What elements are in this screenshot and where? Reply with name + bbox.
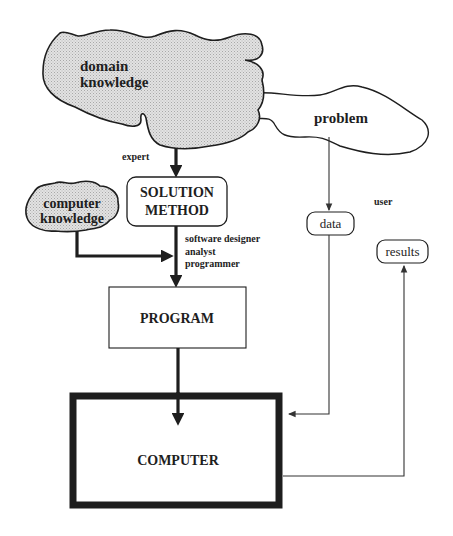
solution-method-label-line1: SOLUTION <box>140 185 214 200</box>
computer-knowledge-cloud: computer knowledge <box>26 181 119 231</box>
role-label-software-designer: software designer <box>185 233 261 244</box>
problem-label: problem <box>314 110 368 126</box>
diagram-canvas: problem domain knowledge expert SOLUTION… <box>0 0 453 536</box>
arrow-data-to-computer <box>289 235 329 414</box>
problem-cloud: problem <box>250 86 428 155</box>
domain-knowledge-label-line1: domain <box>80 58 129 74</box>
program-box: PROGRAM <box>109 287 246 348</box>
domain-knowledge-cloud: domain knowledge <box>43 30 264 149</box>
program-label: PROGRAM <box>140 311 214 326</box>
computer-label: COMPUTER <box>137 453 220 468</box>
data-label: data <box>320 216 342 231</box>
arrow-computer-knowledge-to-flow <box>77 231 168 256</box>
data-box: data <box>307 212 354 235</box>
role-label-user: user <box>374 196 393 207</box>
results-label: results <box>386 244 420 259</box>
domain-knowledge-label-line2: knowledge <box>80 74 149 90</box>
role-label-expert: expert <box>122 151 150 162</box>
arrow-computer-to-results <box>283 266 404 476</box>
computer-knowledge-label-line1: computer <box>43 196 101 211</box>
computer-box: COMPUTER <box>73 396 279 505</box>
role-label-programmer: programmer <box>185 258 240 269</box>
solution-method-box: SOLUTION METHOD <box>127 177 227 226</box>
role-label-analyst: analyst <box>185 246 216 257</box>
solution-method-label-line2: METHOD <box>145 203 209 218</box>
results-box: results <box>377 240 428 263</box>
computer-knowledge-label-line2: knowledge <box>40 211 104 226</box>
